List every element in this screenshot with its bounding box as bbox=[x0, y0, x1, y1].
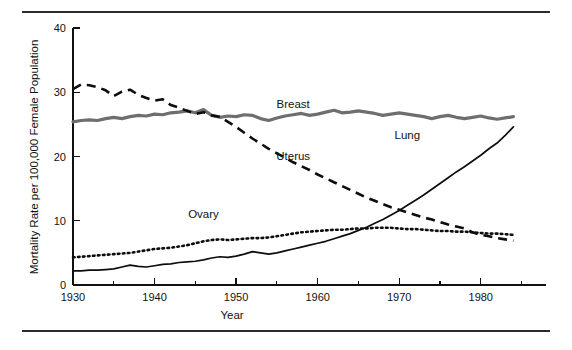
x-tick-label-group: 193019401950196019701980 bbox=[61, 291, 493, 303]
x-tick-label-1940: 1940 bbox=[142, 291, 166, 303]
series-line-lung bbox=[73, 127, 513, 271]
line-chart: 010203040 193019401950196019701980 Breas… bbox=[0, 0, 572, 350]
x-axis-title: Year bbox=[220, 309, 243, 321]
figure-container: 010203040 193019401950196019701980 Breas… bbox=[0, 0, 572, 350]
series-line-breast bbox=[73, 110, 513, 122]
y-tick-label-20: 20 bbox=[54, 151, 66, 163]
series-group bbox=[73, 85, 513, 271]
y-axis-title: Mortality Rate per 100,000 Female Popula… bbox=[28, 40, 40, 275]
series-label-ovary: Ovary bbox=[188, 208, 219, 220]
series-label-breast: Breast bbox=[277, 98, 311, 110]
series-label-uterus: Uterus bbox=[276, 150, 310, 162]
y-tick-label-40: 40 bbox=[54, 22, 66, 34]
y-tick-label-10: 10 bbox=[54, 215, 66, 227]
y-tick-label-group: 010203040 bbox=[54, 22, 66, 291]
x-tick-label-1980: 1980 bbox=[469, 291, 493, 303]
x-tick-label-1970: 1970 bbox=[387, 291, 411, 303]
x-tick-label-1950: 1950 bbox=[224, 291, 248, 303]
series-label-lung: Lung bbox=[395, 129, 421, 141]
y-tick-group bbox=[73, 28, 80, 285]
x-tick-label-1960: 1960 bbox=[305, 291, 329, 303]
y-tick-label-0: 0 bbox=[60, 279, 66, 291]
y-tick-label-30: 30 bbox=[54, 86, 66, 98]
series-line-ovary bbox=[73, 228, 513, 258]
x-tick-label-1930: 1930 bbox=[61, 291, 85, 303]
